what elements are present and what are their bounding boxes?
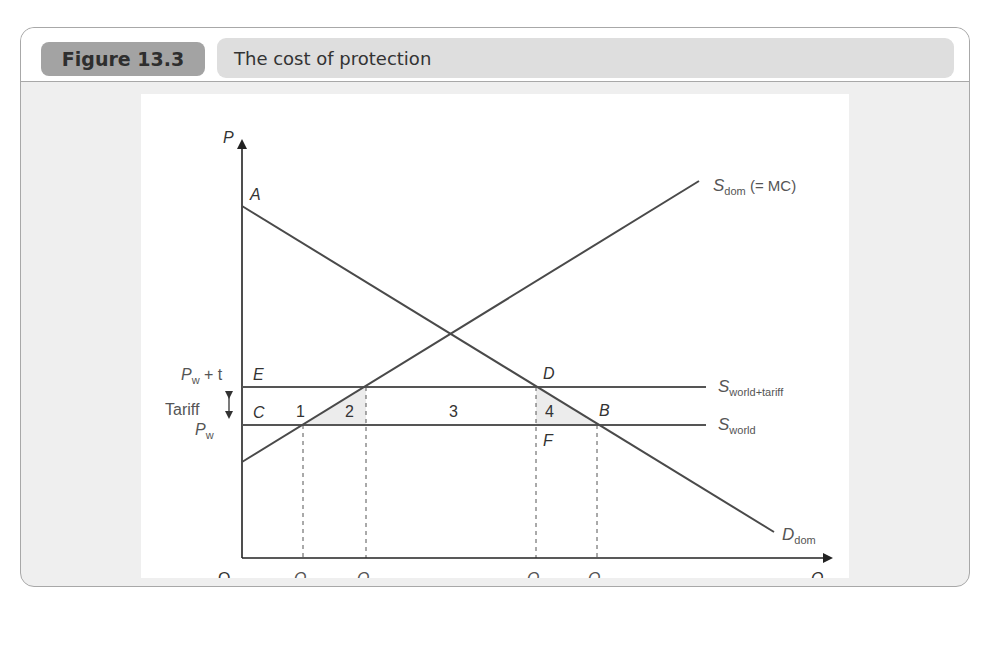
x-axis-label: Q <box>811 570 823 578</box>
area-2: 2 <box>345 403 354 420</box>
price-pw-plus-t: Pw + t <box>181 366 223 386</box>
point-a: A <box>249 186 261 203</box>
plot-area: P Q O A B C D E F 1 2 3 4 Pw + t Tariff … <box>141 94 849 578</box>
point-d: D <box>543 365 555 382</box>
label-s-world-tariff: Sworld+tariff <box>718 377 784 398</box>
figure-header: Figure 13.3 The cost of protection <box>21 28 969 82</box>
figure-title: The cost of protection <box>217 38 954 78</box>
point-f: F <box>543 432 554 449</box>
price-pw: Pw <box>195 421 214 441</box>
label-q4: Q4 <box>527 570 545 578</box>
tariff-label: Tariff <box>165 401 200 418</box>
origin-label: O <box>218 570 230 578</box>
figure-frame: Figure 13.3 The cost of protection <box>20 27 970 587</box>
figure-number-badge: Figure 13.3 <box>41 42 205 76</box>
area-1: 1 <box>296 403 305 420</box>
label-q2: Q2 <box>588 570 606 578</box>
label-q1: Q1 <box>294 570 312 578</box>
area-3: 3 <box>449 403 458 420</box>
point-c: C <box>253 404 265 421</box>
label-s-dom: Sdom (= MC) <box>713 176 796 197</box>
label-s-world: Sworld <box>718 415 756 436</box>
tariff-diagram: P Q O A B C D E F 1 2 3 4 Pw + t Tariff … <box>141 94 849 578</box>
label-q3: Q3 <box>357 570 375 578</box>
area-4: 4 <box>545 403 554 420</box>
demand-curve <box>242 206 774 532</box>
point-b: B <box>599 402 610 419</box>
label-d-dom: Ddom <box>782 525 816 546</box>
point-e: E <box>253 366 264 383</box>
supply-curve <box>242 181 699 462</box>
y-axis-label: P <box>223 129 234 146</box>
